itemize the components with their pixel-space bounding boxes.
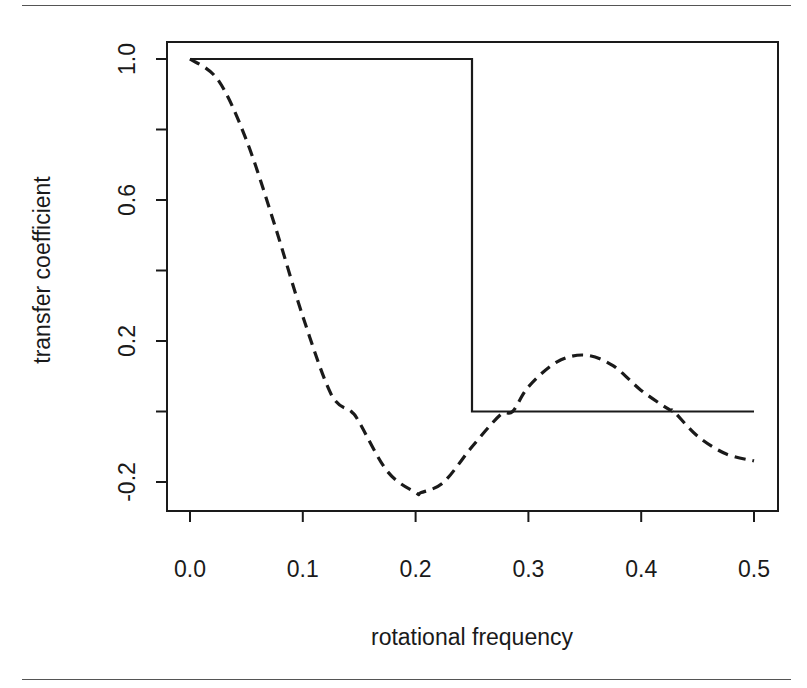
x-tick-label: 0.2 bbox=[400, 556, 432, 582]
x-tick-label: 0.5 bbox=[738, 556, 770, 582]
y-axis: -0.20.20.61.0 bbox=[114, 43, 167, 502]
x-tick-label: 0.1 bbox=[287, 556, 319, 582]
solid-series-line bbox=[190, 59, 754, 412]
y-tick-label: 1.0 bbox=[114, 43, 140, 75]
y-axis-title: transfer coefficient bbox=[29, 176, 55, 364]
x-tick-label: 0.3 bbox=[512, 556, 544, 582]
x-axis-title: rotational frequency bbox=[371, 624, 574, 650]
x-axis: 0.00.10.20.30.40.5 bbox=[174, 511, 770, 582]
y-tick-label: 0.6 bbox=[114, 184, 140, 216]
x-tick-label: 0.4 bbox=[625, 556, 657, 582]
chart: 0.00.10.20.30.40.5 -0.20.20.61.0 rotatio… bbox=[0, 0, 807, 688]
y-tick-label: -0.2 bbox=[114, 462, 140, 502]
y-tick-label: 0.2 bbox=[114, 325, 140, 357]
x-tick-label: 0.0 bbox=[174, 556, 206, 582]
